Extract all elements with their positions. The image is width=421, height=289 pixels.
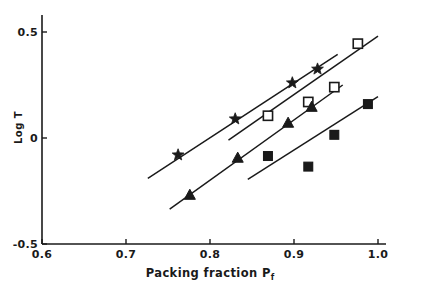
x-axis-title: Packing fraction Pf <box>146 266 275 282</box>
plot-canvas <box>0 0 421 289</box>
axes <box>42 15 386 244</box>
fit-line-open-square-series <box>228 36 378 140</box>
fit-line-star-series <box>148 54 338 178</box>
data-point-open-square <box>330 83 339 92</box>
x-tick-label: 0.9 <box>284 248 304 261</box>
data-point-filled-square <box>304 162 313 171</box>
data-point-filled-square <box>330 130 339 139</box>
data-point-filled-star <box>229 113 241 124</box>
x-tick-label: 0.7 <box>116 248 136 261</box>
chart-figure: 0.60.70.80.91.00.50-0.5 Packing fraction… <box>0 0 421 289</box>
data-point-filled-square <box>364 100 373 109</box>
x-tick-label: 1.0 <box>368 248 388 261</box>
x-tick-label: 0.8 <box>200 248 220 261</box>
x-axis-title-main: Packing fraction P <box>146 266 271 280</box>
fit-lines <box>148 36 378 209</box>
y-tick-label: -0.5 <box>4 238 38 251</box>
data-point-open-square <box>353 39 362 48</box>
data-point-filled-triangle <box>184 189 195 199</box>
y-tick-label: 0.5 <box>4 26 38 39</box>
y-axis-title: Log T <box>13 98 24 158</box>
x-axis-title-subscript: f <box>271 273 274 282</box>
data-point-filled-square <box>264 152 273 161</box>
data-point-open-square <box>263 111 272 120</box>
